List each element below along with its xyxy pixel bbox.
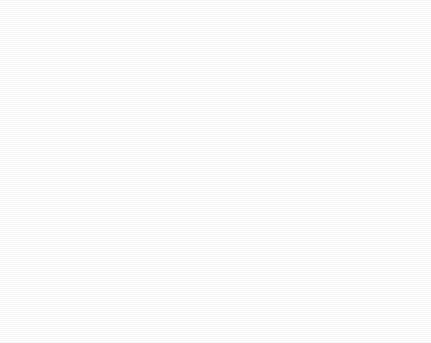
pie-chart <box>0 0 431 343</box>
pie-chart-svg <box>0 0 431 343</box>
